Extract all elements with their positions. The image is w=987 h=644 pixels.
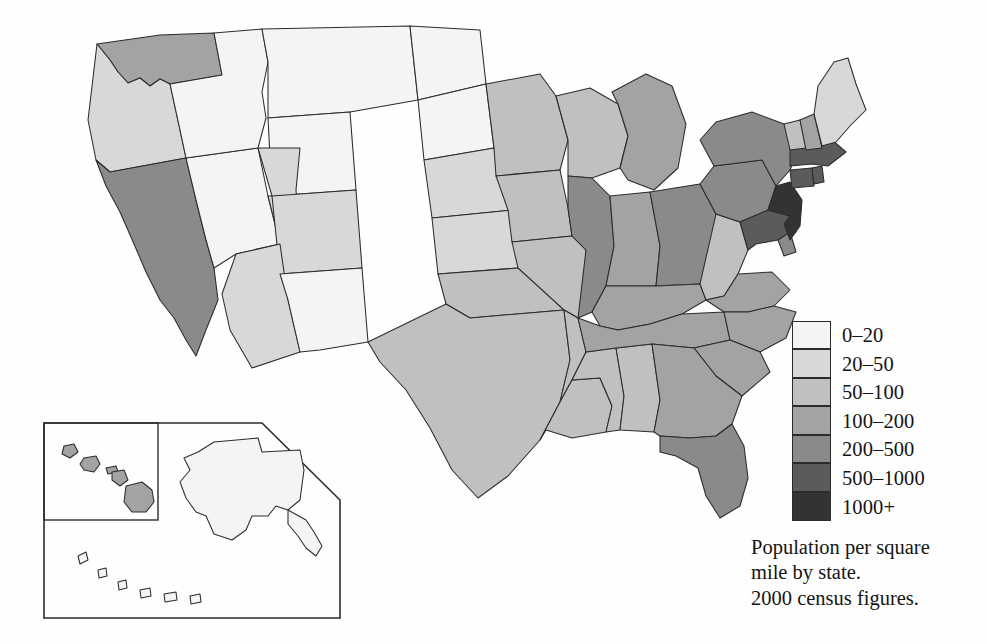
state-hawaii-maui — [112, 470, 128, 486]
map-figure: 0–2020–5050–100100–200200–500500–1000100… — [0, 0, 987, 644]
alaska-aleutians-2 — [98, 568, 107, 578]
state-hawaii-bigisle — [124, 482, 154, 512]
legend-row: 50–100 — [792, 378, 925, 407]
legend-swatch — [792, 463, 831, 492]
legend-row: 500–1000 — [792, 464, 925, 493]
state-hawaii-oahu — [80, 456, 100, 472]
legend-label: 1000+ — [842, 497, 895, 518]
legend-row: 100–200 — [792, 407, 925, 436]
state-hawaii-kauai — [62, 444, 78, 458]
state-connecticut — [790, 168, 814, 188]
legend-row: 1000+ — [792, 493, 925, 522]
legend-swatch — [792, 492, 831, 521]
state-indiana — [606, 192, 660, 286]
state-polygon-group — [88, 26, 866, 518]
legend-swatch — [792, 378, 831, 407]
state-colorado — [272, 190, 362, 274]
figure-caption: Population per square mile by state. 200… — [751, 535, 983, 611]
alaska-panhandle — [288, 510, 322, 556]
legend-label: 0–20 — [842, 325, 883, 346]
alaska-aleutians-5 — [164, 592, 177, 602]
alaska-aleutians-3 — [118, 580, 127, 590]
legend-label: 20–50 — [842, 354, 894, 375]
state-texas — [368, 304, 570, 498]
inset-polygon-group — [62, 438, 322, 604]
state-montana — [262, 26, 418, 118]
caption-line-1: Population per square — [751, 535, 983, 560]
state-maine — [814, 58, 866, 146]
legend-label: 100–200 — [842, 411, 914, 432]
state-florida — [660, 424, 748, 518]
legend-label: 200–500 — [842, 439, 914, 460]
legend-swatch — [792, 321, 831, 350]
legend-swatch — [792, 349, 831, 378]
legend-swatch — [792, 406, 831, 435]
state-minnesota — [486, 74, 568, 176]
state-alaska — [180, 438, 304, 540]
alaska-aleutians-1 — [78, 552, 88, 564]
alaska-aleutians-6 — [190, 594, 201, 604]
state-rhode-island — [812, 166, 824, 184]
caption-line-3: 2000 census figures. — [751, 586, 983, 611]
legend-row: 200–500 — [792, 435, 925, 464]
state-kansas — [432, 210, 518, 274]
legend-swatch — [792, 435, 831, 464]
legend: 0–2020–5050–100100–200200–500500–1000100… — [792, 321, 925, 521]
legend-label: 500–1000 — [842, 468, 925, 489]
legend-row: 20–50 — [792, 350, 925, 379]
legend-label: 50–100 — [842, 382, 904, 403]
legend-row: 0–20 — [792, 321, 925, 350]
alaska-aleutians-4 — [140, 588, 151, 598]
caption-line-2: mile by state. — [751, 560, 983, 585]
